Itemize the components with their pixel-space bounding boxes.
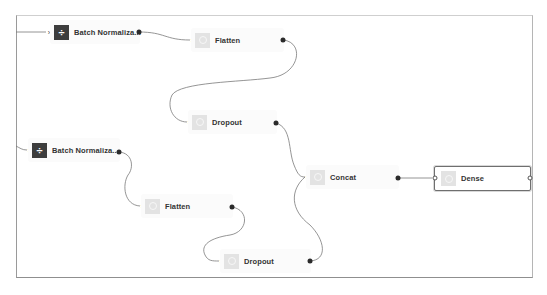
layer-circle-icon bbox=[192, 115, 207, 130]
node-flatten-1[interactable]: Flatten bbox=[191, 28, 284, 52]
divide-icon: ÷ bbox=[32, 143, 47, 158]
node-label: Batch Normaliza... bbox=[74, 28, 141, 37]
node-label: Batch Normaliza... bbox=[52, 146, 119, 155]
layer-circle-icon bbox=[441, 171, 456, 186]
node-flatten-2[interactable]: Flatten bbox=[141, 194, 233, 218]
dropout2-output-port[interactable] bbox=[308, 259, 313, 264]
bn1-output-port[interactable] bbox=[137, 30, 142, 35]
concat-output-port[interactable] bbox=[396, 176, 401, 181]
dense-input-port[interactable] bbox=[433, 176, 438, 181]
node-label: Concat bbox=[330, 173, 356, 182]
bn2-output-port[interactable] bbox=[117, 150, 122, 155]
dense-output-port[interactable] bbox=[528, 176, 533, 181]
dropout1-output-port[interactable] bbox=[274, 121, 279, 126]
node-label: Dropout bbox=[212, 118, 242, 127]
layer-circle-icon bbox=[195, 33, 210, 48]
node-batch-normalization-1[interactable]: ÷ Batch Normaliza... bbox=[50, 20, 140, 44]
node-concat[interactable]: Concat bbox=[306, 165, 399, 189]
flatten2-output-port[interactable] bbox=[230, 205, 235, 210]
node-label: Flatten bbox=[215, 36, 240, 45]
node-label: Flatten bbox=[165, 202, 190, 211]
node-batch-normalization-2[interactable]: ÷ Batch Normaliza... bbox=[28, 138, 120, 162]
layer-circle-icon bbox=[145, 199, 160, 214]
node-label: Dropout bbox=[244, 257, 274, 266]
node-dense[interactable]: Dense bbox=[434, 166, 531, 191]
layer-circle-icon bbox=[224, 254, 239, 269]
node-dropout-2[interactable]: Dropout bbox=[220, 249, 311, 273]
flatten1-output-port[interactable] bbox=[281, 38, 286, 43]
divide-icon: ÷ bbox=[54, 25, 69, 40]
layer-circle-icon bbox=[310, 170, 325, 185]
node-dropout-1[interactable]: Dropout bbox=[188, 110, 277, 134]
node-label: Dense bbox=[461, 174, 484, 183]
